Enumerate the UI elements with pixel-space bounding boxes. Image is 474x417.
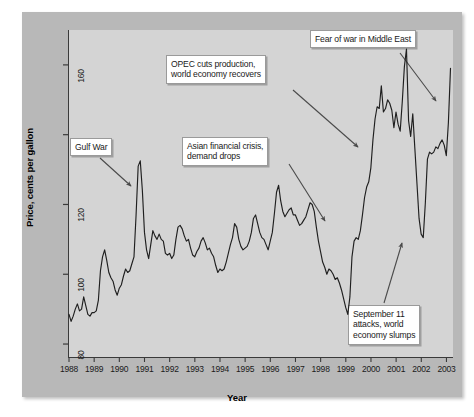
figure-container: Price, cents per gallon Year 80100120140… xyxy=(0,0,474,417)
arrow-opec-cuts-production xyxy=(293,90,358,147)
chart-svg xyxy=(0,0,474,417)
tick-marks xyxy=(63,65,446,362)
annotation-arrows xyxy=(100,53,436,303)
price-line-series xyxy=(69,49,450,321)
arrow-september-11-attacks xyxy=(384,243,402,303)
arrow-gulf-war xyxy=(100,158,131,186)
